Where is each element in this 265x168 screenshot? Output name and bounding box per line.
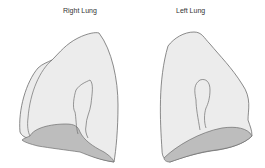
lungs-diagram — [0, 0, 265, 168]
left-lung — [160, 32, 252, 162]
right-lung — [20, 33, 118, 162]
